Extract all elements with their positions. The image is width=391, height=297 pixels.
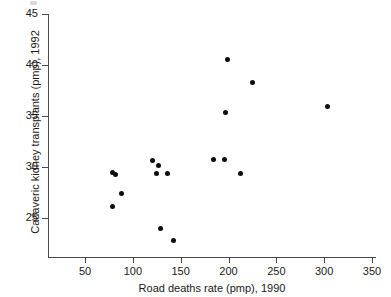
- data-point: [119, 191, 124, 196]
- x-tick-label: 100: [113, 266, 153, 277]
- x-tick-mark: [85, 257, 86, 263]
- x-tick-mark: [324, 257, 325, 263]
- y-tick-mark: [42, 65, 48, 66]
- y-tick-mark: [42, 167, 48, 168]
- y-tick-mark: [42, 116, 48, 117]
- x-tick-label: 350: [352, 266, 391, 277]
- data-point: [165, 171, 170, 176]
- x-tick-mark: [181, 257, 182, 263]
- data-point: [110, 204, 115, 209]
- x-tick-mark: [372, 257, 373, 263]
- data-point: [250, 80, 255, 85]
- x-tick-mark: [276, 257, 277, 263]
- x-tick-label: 300: [304, 266, 344, 277]
- data-point: [325, 104, 330, 109]
- data-point: [113, 172, 118, 177]
- x-axis-title: Road deaths rate (pmp), 1990: [48, 282, 376, 294]
- data-point: [211, 157, 216, 162]
- x-tick-mark: [133, 257, 134, 263]
- scatter-chart: 2530354045 50100150200250300350 Road dea…: [0, 0, 391, 297]
- y-axis-title: Cadaveric kidney transplants (pmp), 1992: [29, 7, 41, 257]
- y-tick-mark: [42, 218, 48, 219]
- x-tick-label: 200: [209, 266, 249, 277]
- data-point: [225, 57, 230, 62]
- x-tick-mark: [229, 257, 230, 263]
- scan-artifact: [30, 1, 37, 5]
- data-point: [154, 171, 159, 176]
- data-point: [171, 238, 176, 243]
- y-tick-mark: [42, 14, 48, 15]
- data-point: [156, 163, 161, 168]
- x-tick-label: 250: [256, 266, 296, 277]
- data-point: [223, 110, 228, 115]
- x-tick-label: 150: [161, 266, 201, 277]
- x-tick-label: 50: [65, 266, 105, 277]
- x-axis-line: [48, 257, 376, 258]
- data-point: [150, 158, 155, 163]
- data-point: [222, 157, 227, 162]
- data-point: [158, 226, 163, 231]
- y-axis-line: [48, 14, 49, 258]
- data-point: [238, 171, 243, 176]
